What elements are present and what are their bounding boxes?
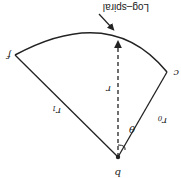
log-spiral-diagram: b f c r r1 r0 θ Log–spiral	[0, 0, 181, 178]
radius-1-label: r1	[52, 104, 61, 117]
left-end-label: f	[5, 50, 12, 61]
apex-point	[116, 155, 120, 159]
log-spiral-arc	[15, 33, 167, 72]
apex-label: b	[115, 168, 121, 178]
edge-r1	[15, 55, 118, 157]
log-spiral-title: Log–spiral	[103, 2, 149, 13]
theta-label: θ	[129, 124, 135, 135]
right-end-label: c	[173, 68, 179, 79]
radius-0-label: r0	[157, 114, 167, 127]
pointer-arrow	[99, 14, 112, 28]
radius-label: r	[105, 84, 111, 95]
